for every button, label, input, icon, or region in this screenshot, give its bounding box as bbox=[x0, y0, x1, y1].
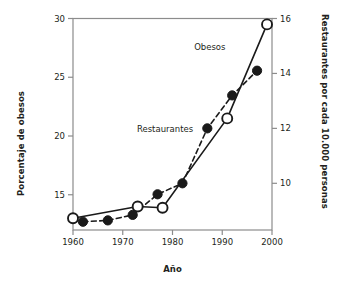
y-axis-left-tick-label: 15 bbox=[54, 191, 65, 200]
y-axis-right-tick-label: 12 bbox=[280, 124, 291, 133]
data-point-obesos bbox=[68, 213, 78, 223]
data-point-obesos bbox=[222, 113, 232, 123]
y-axis-left-tick-label: 20 bbox=[54, 132, 65, 141]
data-point-restaurantes bbox=[228, 91, 237, 100]
data-point-restaurantes bbox=[203, 124, 212, 133]
y-axis-right-tick-label: 10 bbox=[280, 179, 291, 188]
data-point-obesos bbox=[158, 203, 168, 213]
data-point-restaurantes bbox=[153, 190, 162, 199]
x-axis-tick-label: 1990 bbox=[211, 238, 233, 247]
data-point-restaurantes bbox=[252, 66, 261, 75]
x-axis-tick-label: 1970 bbox=[112, 238, 134, 247]
data-point-restaurantes bbox=[78, 217, 87, 226]
data-point-restaurantes bbox=[128, 210, 137, 219]
chart-figure: Porcentaje de obesos Restaurantes por ca… bbox=[0, 0, 345, 290]
y-axis-right-tick-label: 14 bbox=[280, 69, 291, 78]
x-axis-tick-label: 1960 bbox=[62, 238, 84, 247]
y-axis-left-tick-label: 30 bbox=[54, 14, 65, 23]
y-axis-left-tick-label: 25 bbox=[54, 73, 65, 82]
series-label-restaurantes: Restaurantes bbox=[137, 124, 193, 134]
data-point-obesos bbox=[262, 19, 272, 29]
x-axis-tick-label: 2000 bbox=[261, 238, 283, 247]
y-axis-right-tick-label: 16 bbox=[280, 14, 291, 23]
series-label-obesos: Obesos bbox=[194, 42, 225, 52]
data-point-restaurantes bbox=[178, 179, 187, 188]
data-point-restaurantes bbox=[103, 216, 112, 225]
x-axis-tick-label: 1980 bbox=[162, 238, 184, 247]
data-point-obesos bbox=[133, 202, 143, 212]
